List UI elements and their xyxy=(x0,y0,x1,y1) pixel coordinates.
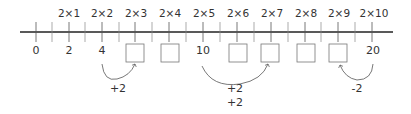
jump-arc-plus2-a xyxy=(102,64,135,79)
value-2: 2 xyxy=(66,44,73,57)
jump-label-plus2-a: +2 xyxy=(110,82,126,95)
top-label-2x7: 2×7 xyxy=(261,7,283,19)
top-label-2x8: 2×8 xyxy=(295,7,317,19)
jump-label-plus2-b2: +2 xyxy=(227,96,243,109)
jump-label-plus2-b1: +2 xyxy=(227,82,243,95)
answer-box-2x6[interactable] xyxy=(229,44,247,62)
answer-box-2x9[interactable] xyxy=(329,44,347,62)
value-4: 4 xyxy=(99,44,106,57)
top-label-2x1: 2×1 xyxy=(58,7,80,19)
top-label-2x6: 2×6 xyxy=(227,7,249,19)
value-0: 0 xyxy=(33,44,40,57)
top-label-2x4: 2×4 xyxy=(159,7,181,19)
answer-box-2x8[interactable] xyxy=(297,44,315,62)
top-label-2x5: 2×5 xyxy=(193,7,215,19)
top-label-2x2: 2×2 xyxy=(91,7,113,19)
answer-box-2x3[interactable] xyxy=(126,44,144,62)
top-label-2x10: 2×10 xyxy=(360,7,389,19)
answer-boxes xyxy=(126,44,347,62)
jump-arc-minus2 xyxy=(340,64,373,80)
value-10: 10 xyxy=(196,44,210,57)
answer-box-2x7[interactable] xyxy=(261,44,279,62)
top-label-2x3: 2×3 xyxy=(125,7,147,19)
answer-box-2x4[interactable] xyxy=(161,44,179,62)
value-20: 20 xyxy=(366,44,380,57)
jump-label-minus2: -2 xyxy=(352,82,363,95)
number-line-diagram: 2×1 2×2 2×3 2×4 2×5 2×6 2×7 2×8 2×9 2×10… xyxy=(0,0,411,114)
top-label-2x9: 2×9 xyxy=(328,7,350,19)
